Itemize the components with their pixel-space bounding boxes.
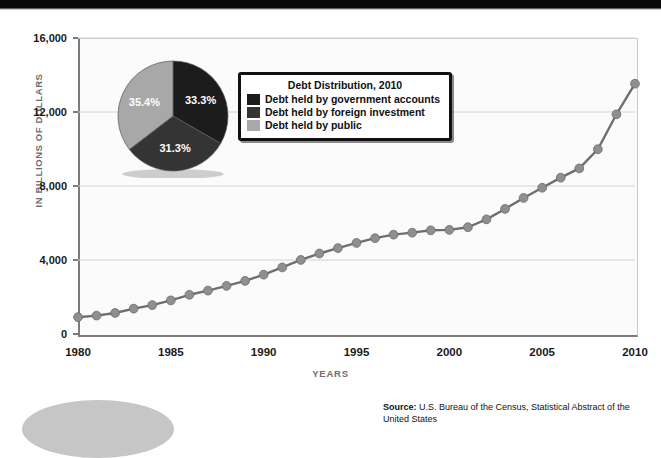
data-point: [111, 309, 120, 318]
legend-item-foreign-investment: Debt held by foreign investment: [247, 106, 443, 118]
data-point: [278, 263, 287, 272]
legend-label-foreign-investment: Debt held by foreign investment: [265, 106, 425, 118]
pie-slice-value: 35.4%: [129, 96, 160, 108]
source-note: Source: U.S. Bureau of the Census, Stati…: [383, 402, 658, 425]
data-point: [631, 79, 640, 88]
x-axis-tick: 2000: [437, 346, 463, 358]
x-axis-label: YEARS: [0, 368, 661, 379]
data-point: [259, 270, 268, 279]
data-point: [408, 228, 417, 237]
legend-item-public: Debt held by public: [247, 119, 443, 131]
legend: Debt Distribution, 2010 Debt held by gov…: [238, 72, 452, 141]
data-point: [482, 215, 491, 224]
data-point: [222, 281, 231, 290]
x-axis-tick: 1980: [65, 346, 91, 358]
data-point: [352, 239, 361, 248]
data-point: [315, 249, 324, 258]
y-axis-tick: 8,000: [39, 180, 67, 192]
pie-slice-value: 33.3%: [185, 94, 216, 106]
pie-slice-value: 31.3%: [160, 142, 191, 154]
data-point: [426, 226, 435, 235]
source-text: U.S. Bureau of the Census, Statistical A…: [383, 402, 630, 424]
x-axis-tick: 1995: [344, 346, 370, 358]
data-point: [519, 194, 528, 203]
legend-title: Debt Distribution, 2010: [247, 79, 443, 91]
data-point: [129, 304, 138, 313]
data-point: [612, 110, 621, 119]
y-axis-tick: 0: [61, 328, 67, 340]
data-point: [74, 313, 83, 322]
legend-swatch-government-accounts: [247, 94, 260, 105]
data-point: [148, 301, 157, 310]
legend-label-public: Debt held by public: [265, 119, 362, 131]
data-point: [556, 173, 565, 182]
source-label: Source:: [383, 402, 417, 412]
legend-item-government-accounts: Debt held by government accounts: [247, 93, 443, 105]
legend-swatch-public: [247, 120, 260, 131]
data-point: [445, 225, 454, 234]
data-point: [389, 230, 398, 239]
data-point: [501, 205, 510, 214]
data-point: [371, 234, 380, 243]
x-axis-tick: 1985: [158, 346, 184, 358]
y-axis-tick: 12,000: [33, 106, 67, 118]
x-axis-tick: 2005: [529, 346, 555, 358]
data-point: [575, 164, 584, 173]
data-point: [334, 244, 343, 253]
data-point: [464, 223, 473, 232]
y-axis-tick: 16,000: [33, 32, 67, 44]
data-point: [296, 256, 305, 265]
data-point: [204, 286, 213, 295]
legend-label-government-accounts: Debt held by government accounts: [265, 93, 440, 105]
data-point: [166, 296, 175, 305]
data-point: [593, 145, 602, 154]
data-point: [538, 183, 547, 192]
data-point: [92, 311, 101, 320]
pie-chart-graphic: 33.3%31.3%35.4%: [113, 58, 233, 178]
x-axis-tick: 1990: [251, 346, 277, 358]
x-axis-tick: 2010: [622, 346, 648, 358]
data-point: [241, 277, 250, 286]
legend-swatch-foreign-investment: [247, 107, 260, 118]
decorative-ellipse: [22, 400, 174, 458]
data-point: [185, 290, 194, 299]
y-axis-tick: 4,000: [39, 254, 67, 266]
